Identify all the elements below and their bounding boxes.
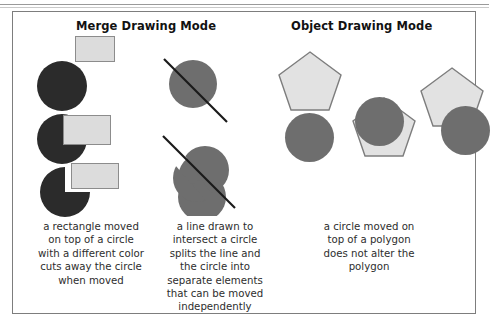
medium-circle-shape (285, 113, 334, 162)
caption-line: on top of a circle (29, 233, 153, 246)
column-object-pentagon-circle (279, 12, 477, 212)
column-merge-rectangle-circle (13, 12, 143, 212)
caption-line: independently (153, 300, 277, 313)
light-rectangle-shape (71, 163, 119, 189)
caption-line: the circle into (153, 260, 277, 273)
split-circle-shape (157, 130, 247, 216)
caption-line: that can be moved (153, 287, 277, 300)
dark-circle-shape (37, 61, 87, 111)
light-rectangle-shape (63, 115, 111, 145)
caption-line: a rectangle moved (29, 220, 153, 233)
light-rectangle-shape (75, 36, 115, 62)
medium-circle-shape (441, 106, 490, 155)
caption-line: a line drawn to (153, 220, 277, 233)
caption-line: with a different color (29, 247, 153, 260)
caption-line: does not alter the (289, 247, 449, 260)
page-top-rule (0, 4, 489, 5)
caption-line: splits the line and (153, 247, 277, 260)
figure-frame: Merge Drawing Mode Object Drawing Mode (12, 11, 476, 314)
caption-line: cuts away the circle (29, 260, 153, 273)
diagonal-line-shape (157, 52, 241, 134)
caption-line: intersect a circle (153, 233, 277, 246)
page-top-rule-secondary (0, 7, 489, 8)
medium-circle-shape (355, 97, 404, 146)
caption-line: when moved (29, 274, 153, 287)
caption-merge-line-circle: a line drawn to intersect a circle split… (153, 220, 277, 314)
caption-line: a circle moved on (289, 220, 449, 233)
caption-line: top of a polygon (289, 233, 449, 246)
caption-object-pentagon-circle: a circle moved on top of a polygon does … (289, 220, 449, 274)
caption-line: polygon (289, 260, 449, 273)
column-merge-line-circle (143, 12, 279, 212)
caption-line: separate elements (153, 274, 277, 287)
caption-merge-rectangle-circle: a rectangle moved on top of a circle wit… (29, 220, 153, 287)
light-pentagon-shape (277, 50, 343, 112)
